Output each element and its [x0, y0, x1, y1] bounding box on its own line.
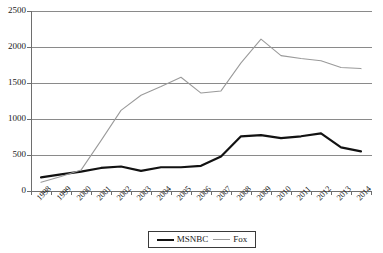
legend-swatch-fox-icon: [213, 239, 230, 240]
legend-label-msnbc: MSNBC: [177, 235, 209, 244]
series-line-fox: [41, 39, 361, 182]
legend-swatch-msnbc-icon: [157, 239, 174, 241]
series-line-msnbc: [41, 133, 361, 177]
line-chart: 05001000150020002500 1998199920002001200…: [0, 0, 383, 253]
legend-entry-msnbc: MSNBC: [157, 235, 209, 244]
chart-legend: MSNBC Fox: [148, 231, 256, 248]
series-paths: [0, 0, 383, 253]
legend-label-fox: Fox: [233, 235, 247, 244]
legend-entry-fox: Fox: [213, 235, 247, 244]
